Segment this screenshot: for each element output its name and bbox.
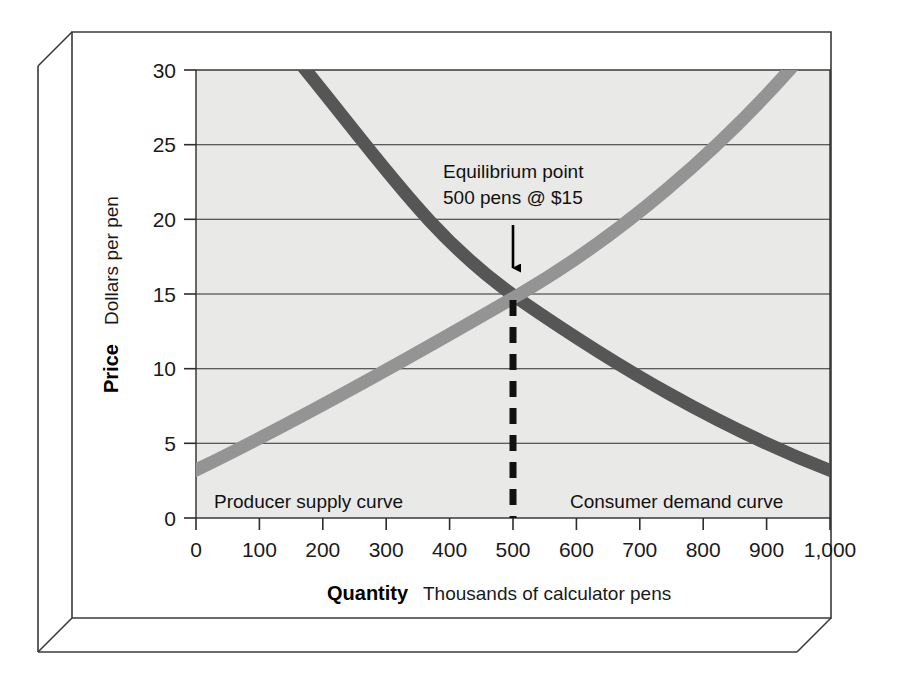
y-axis-tick-labels: 0 5 10 15 20 25 30 (153, 59, 176, 530)
y-tick-20: 20 (153, 208, 176, 231)
x-tick-900: 900 (749, 538, 784, 561)
y-tick-5: 5 (164, 432, 176, 455)
y-tick-30: 30 (153, 59, 176, 82)
supply-curve-label: Producer supply curve (214, 491, 403, 512)
x-tick-300: 300 (369, 538, 404, 561)
x-axis-ticks (196, 518, 830, 530)
y-axis-title-bold: Price (100, 344, 122, 393)
x-tick-200: 200 (305, 538, 340, 561)
x-tick-100: 100 (242, 538, 277, 561)
x-tick-500: 500 (495, 538, 530, 561)
x-tick-700: 700 (622, 538, 657, 561)
y-axis-title-regular: Dollars per pen (101, 196, 122, 325)
y-axis-ticks (184, 70, 196, 518)
demand-curve-label: Consumer demand curve (570, 491, 783, 512)
x-axis-title-regular: Thousands of calculator pens (423, 583, 671, 604)
x-axis-title: Quantity Thousands of calculator pens (327, 582, 671, 604)
x-tick-0: 0 (190, 538, 202, 561)
y-tick-25: 25 (153, 133, 176, 156)
y-axis-title: Price Dollars per pen (100, 196, 122, 393)
x-tick-800: 800 (686, 538, 721, 561)
equilibrium-annotation-line2: 500 pens @ $15 (443, 187, 583, 208)
x-axis-title-bold: Quantity (327, 582, 409, 604)
y-tick-10: 10 (153, 357, 176, 380)
y-tick-15: 15 (153, 283, 176, 306)
equilibrium-annotation-line1: Equilibrium point (443, 161, 584, 182)
figure-container: Equilibrium point 500 pens @ $15 Produce… (0, 0, 903, 687)
supply-demand-chart: Equilibrium point 500 pens @ $15 Produce… (0, 0, 903, 687)
x-tick-600: 600 (559, 538, 594, 561)
x-tick-1000: 1,000 (804, 538, 857, 561)
y-tick-0: 0 (164, 507, 176, 530)
x-tick-400: 400 (432, 538, 467, 561)
x-axis-tick-labels: 0 100 200 300 400 500 600 700 800 900 1,… (190, 538, 856, 561)
